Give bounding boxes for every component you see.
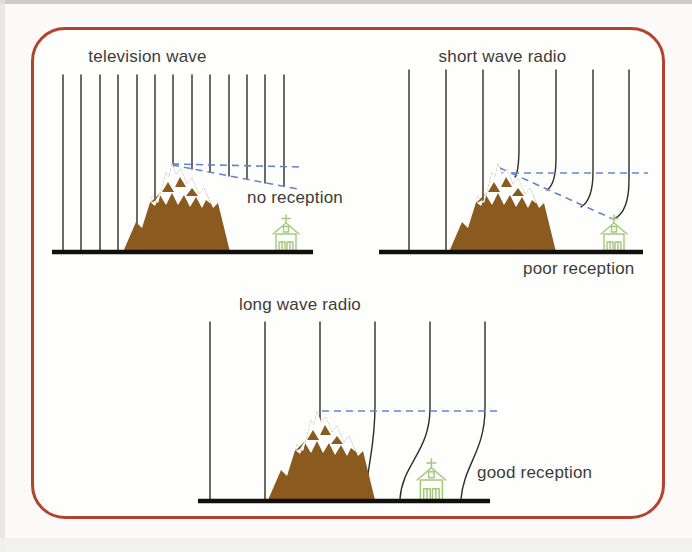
receiver-house-icon [417,459,446,500]
panel-television-title: television wave [75,47,220,67]
panel-television-wave [52,75,313,252]
peak-height-dashed-line [172,164,300,167]
mountain [268,411,375,500]
panel-long-wave-radio [198,322,500,501]
mountain [123,163,230,252]
panel-short-wave-title: short wave radio [424,47,581,67]
panel-long-wave-title: long wave radio [225,295,375,315]
good-reception-label: good reception [477,463,592,483]
scanned-figure-page: television wave short wave radio long wa… [0,0,692,552]
receiver-house-icon [601,215,627,252]
poor-reception-label: poor reception [523,259,634,279]
mountain [449,163,556,252]
no-reception-label: no reception [247,188,343,208]
receiver-house-icon [273,215,299,252]
panel-short-wave-radio [379,70,648,252]
